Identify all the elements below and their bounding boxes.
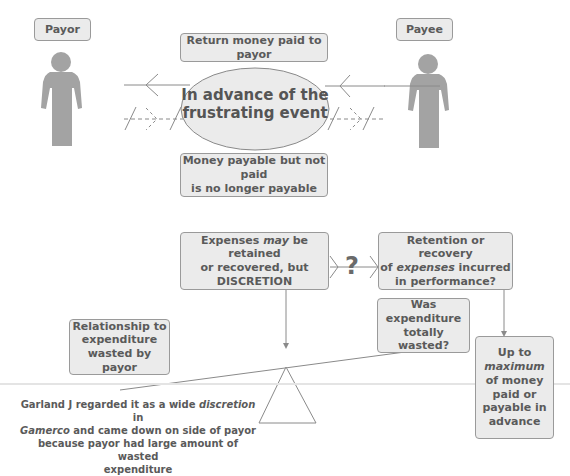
payor-figure-icon xyxy=(41,52,82,146)
event-label: In advance of the frustrating event xyxy=(181,86,329,122)
payor-label: Payor xyxy=(34,18,91,41)
maximum-box: Up to maximum of money paid or payable i… xyxy=(475,336,554,439)
payee-figure-icon xyxy=(408,54,449,148)
wasted-box: Was expenditure totally wasted? xyxy=(377,298,470,353)
money-payable-box: Money payable but not paid is no longer … xyxy=(180,153,328,197)
discretion-box: Expenses may be retained or recovered, b… xyxy=(180,232,329,290)
relationship-box: Relationship to expenditure wasted by pa… xyxy=(69,319,170,375)
gamerco-caption: Garland J regarded it as a wide discreti… xyxy=(18,398,258,476)
payee-label: Payee xyxy=(396,18,453,41)
question-mark: ? xyxy=(345,252,359,280)
retention-box: Retention or recovery of expenses incurr… xyxy=(378,232,513,290)
return-money-box: Return money paid to payor xyxy=(180,33,328,62)
